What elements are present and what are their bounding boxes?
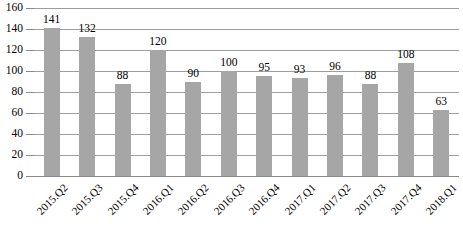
x-axis-labels: 2015.Q22015.Q32015.Q42016.Q12016.Q22016.…: [34, 176, 459, 226]
bar-value-label: 96: [329, 61, 341, 73]
bar-group: 93: [282, 8, 317, 176]
y-axis-tick-label: 160: [6, 2, 23, 14]
x-axis-tick-label: 2017.Q3: [353, 182, 388, 217]
y-axis-tick-label: 80: [12, 86, 24, 98]
bar[interactable]: [327, 75, 343, 176]
y-axis-tick-label: 120: [6, 44, 23, 56]
bar-group: 108: [388, 8, 423, 176]
bar[interactable]: [433, 110, 449, 176]
y-axis-tick-label: 0: [17, 170, 23, 182]
y-axis-tick-label: 60: [12, 107, 24, 119]
y-axis-tick-label: 20: [12, 149, 24, 161]
x-axis-tick-label: 2015.Q2: [35, 182, 70, 217]
bar[interactable]: [150, 50, 166, 176]
y-axis-tick: [26, 113, 34, 114]
x-axis-tick-label: 2017.Q2: [318, 182, 353, 217]
bar[interactable]: [292, 78, 308, 176]
bar[interactable]: [115, 84, 131, 176]
bar-value-label: 95: [258, 62, 270, 74]
bar[interactable]: [398, 63, 414, 176]
x-axis-tick-label: 2016.Q3: [212, 182, 247, 217]
bar[interactable]: [362, 84, 378, 176]
bar-value-label: 63: [436, 96, 448, 108]
x-axis-tick-label: 2018.Q1: [424, 182, 459, 217]
bar-value-label: 141: [43, 14, 60, 26]
y-axis-tick: [26, 71, 34, 72]
x-axis-tick-label: 2017.Q1: [283, 182, 318, 217]
y-axis-tick-label: 140: [6, 23, 23, 35]
bar-group: 63: [424, 8, 459, 176]
bar-value-label: 90: [188, 68, 200, 80]
y-axis-tick-label: 100: [6, 65, 23, 77]
bar-group: 90: [176, 8, 211, 176]
bar-group: 132: [69, 8, 104, 176]
bar-value-label: 108: [397, 49, 414, 61]
y-axis-tick: [26, 92, 34, 93]
bar-value-label: 120: [149, 36, 166, 48]
y-axis-tick: [26, 50, 34, 51]
y-axis-tick: [26, 176, 34, 177]
x-axis-tick-label: 2017.Q4: [389, 182, 424, 217]
x-axis-tick-label: 2015.Q4: [106, 182, 141, 217]
y-axis-tick-label: 40: [12, 128, 24, 140]
bar-group: 100: [211, 8, 246, 176]
bar-value-label: 93: [294, 64, 306, 76]
y-axis-tick: [26, 134, 34, 135]
bar[interactable]: [44, 28, 60, 176]
bar[interactable]: [79, 37, 95, 176]
bar-group: 96: [317, 8, 352, 176]
bar-value-label: 88: [117, 70, 129, 82]
bar-group: 88: [105, 8, 140, 176]
bar-group: 141: [34, 8, 69, 176]
bar[interactable]: [256, 76, 272, 176]
y-axis-tick: [26, 29, 34, 30]
bar[interactable]: [185, 82, 201, 177]
plot-area: 020406080100120140160 141132881209010095…: [34, 8, 459, 176]
bar-group: 120: [140, 8, 175, 176]
bars-layer: 14113288120901009593968810863: [34, 8, 459, 176]
bar-value-label: 132: [78, 23, 95, 35]
bar-group: 88: [353, 8, 388, 176]
bar-group: 95: [247, 8, 282, 176]
bar-value-label: 100: [220, 57, 237, 69]
x-axis-tick-label: 2016.Q4: [247, 182, 282, 217]
x-axis-tick-label: 2016.Q1: [141, 182, 176, 217]
y-axis-tick: [26, 155, 34, 156]
bar-value-label: 88: [365, 70, 377, 82]
bar[interactable]: [221, 71, 237, 176]
bar-chart: 020406080100120140160 141132881209010095…: [0, 0, 463, 226]
y-axis-tick: [26, 8, 34, 9]
x-axis-tick-label: 2015.Q3: [70, 182, 105, 217]
x-axis-tick-label: 2016.Q2: [176, 182, 211, 217]
